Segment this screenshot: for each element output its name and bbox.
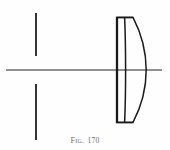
figure-container: Fig.170 [0, 0, 170, 150]
optical-diagram-canvas [0, 0, 170, 150]
diagram-background [0, 0, 170, 150]
figure-caption: Fig.170 [0, 136, 170, 145]
figure-caption-label: Fig. [70, 136, 84, 145]
figure-caption-number: 170 [87, 136, 99, 145]
